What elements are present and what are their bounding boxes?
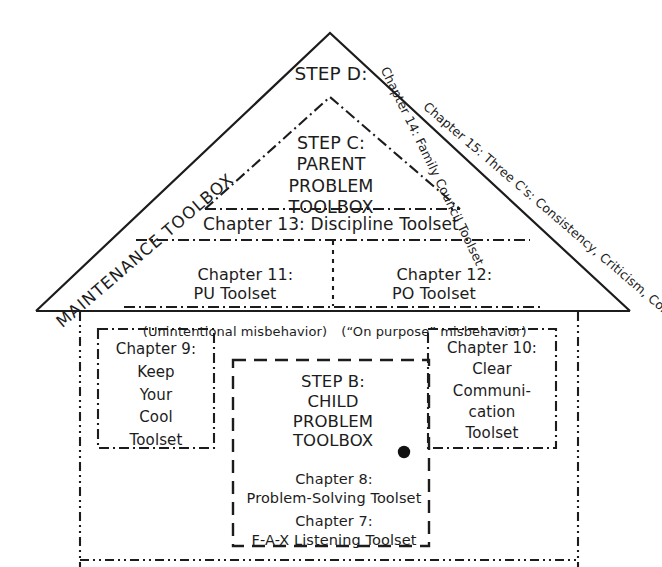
label-chapter-8: Chapter 8: Problem-Solving Toolset: [238, 470, 430, 508]
label-step-d: STEP D:: [271, 63, 391, 84]
diagram-canvas: STEP D: MAINTENANCE TOOLBOX STEP C: PARE…: [0, 0, 662, 567]
label-chapter-13: Chapter 13: Discipline Toolset: [181, 215, 481, 234]
chapter-12-heading: Chapter 12: PO Toolset: [392, 265, 492, 304]
label-step-b-child-problem-toolbox: STEP B: CHILD PROBLEM TOOLBOX: [258, 372, 408, 451]
label-chapter-9: Chapter 9: Keep Your Cool Toolset: [100, 338, 212, 452]
label-step-c-parent-problem-toolbox: STEP C: PARENT PROBLEM TOOLBOX: [250, 133, 412, 218]
label-chapter-10: Chapter 10: Clear Communi- cation Toolse…: [430, 338, 554, 444]
label-chapter-7: Chapter 7: F-A-X Listening Toolset: [238, 512, 430, 550]
chapter-11-heading: Chapter 11: PU Toolset: [194, 265, 294, 304]
